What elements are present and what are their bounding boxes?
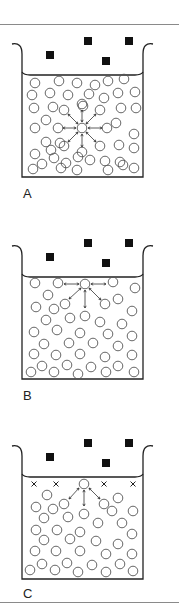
attraction-arrow-icon (64, 283, 79, 285)
molecule-icon (100, 156, 110, 166)
molecule-icon (95, 317, 105, 327)
molecule-icon (61, 158, 71, 168)
x-mark-icon (102, 482, 107, 487)
molecule-icon (72, 165, 82, 175)
molecule-icon (113, 88, 123, 98)
attraction-arrow-icon (63, 127, 76, 129)
molecule-icon (101, 567, 111, 577)
molecule-icon (59, 499, 69, 509)
liquid-surface (22, 474, 143, 477)
molecule-icon (118, 160, 128, 170)
molecule-icon (127, 350, 137, 360)
molecule-icon (103, 329, 113, 339)
molecule-icon (75, 546, 85, 556)
molecule-icon (53, 278, 63, 288)
molecule-icon (62, 360, 72, 370)
molecule-icon (129, 367, 139, 377)
solid-particle-icon (84, 439, 92, 447)
molecule-icon (75, 349, 85, 359)
molecule-icon (100, 352, 110, 362)
molecule-icon (88, 338, 98, 348)
molecule-icon (113, 341, 123, 351)
molecule-icon (111, 118, 121, 128)
panel-a (0, 24, 179, 204)
molecule-icon (65, 534, 75, 544)
molecule-icon (77, 123, 87, 133)
molecule-icon (39, 535, 49, 545)
molecule-icon (80, 279, 90, 289)
molecule-icon (73, 369, 83, 379)
attraction-arrow-icon (91, 283, 106, 285)
molecule-icon (127, 529, 137, 539)
solid-particle-icon (102, 459, 110, 467)
molecule-icon (99, 93, 109, 103)
molecule-icon (103, 76, 113, 86)
molecule-icon (62, 558, 72, 568)
molecule-icon (95, 141, 105, 151)
molecule-icon (113, 294, 123, 304)
molecule-icon (130, 87, 140, 97)
attraction-arrow-icon (83, 490, 85, 506)
attraction-arrow-icon (81, 110, 83, 122)
molecule-icon (63, 512, 73, 522)
molecule-icon (116, 103, 126, 113)
molecule-icon (117, 319, 127, 329)
molecule-icon (30, 149, 40, 159)
panel-label-c: C (23, 587, 32, 600)
molecule-icon (39, 339, 49, 349)
molecule-icon (107, 506, 117, 516)
panel-label-b: B (23, 389, 32, 402)
molecule-icon (86, 362, 96, 372)
molecule-icon (131, 103, 141, 113)
molecule-icon (48, 504, 58, 514)
molecule-icon (43, 290, 53, 300)
molecule-icon (72, 78, 82, 88)
molecule-icon (113, 361, 123, 371)
molecule-icon (29, 327, 39, 337)
molecule-icon (128, 566, 138, 576)
molecule-icon (115, 157, 125, 167)
attraction-arrow-icon (68, 114, 78, 124)
molecule-icon (54, 76, 64, 86)
molecule-icon (100, 299, 110, 309)
molecule-icon (90, 80, 100, 90)
solid-particle-icon (46, 453, 54, 461)
attraction-arrow-icon (88, 127, 102, 129)
solid-particle-icon (84, 37, 92, 45)
molecule-icon (127, 331, 137, 341)
molecule-icon (79, 479, 89, 489)
molecule-icon (27, 90, 37, 100)
molecule-icon (49, 304, 59, 314)
attraction-arrow-icon (86, 114, 96, 124)
molecule-icon (101, 549, 111, 559)
molecule-icon (114, 140, 124, 150)
molecule-icon (80, 311, 90, 321)
molecule-icon (102, 123, 112, 133)
x-mark-icon (131, 482, 136, 487)
molecule-icon (28, 164, 38, 174)
molecule-icon (41, 315, 51, 325)
molecule-icon (29, 349, 39, 359)
molecule-icon (79, 509, 89, 519)
solid-particle-icon (125, 439, 133, 447)
molecule-icon (84, 89, 94, 99)
molecule-icon (49, 153, 59, 163)
molecule-icon (127, 549, 137, 559)
attraction-arrow-icon (89, 288, 101, 300)
molecule-icon (37, 159, 47, 169)
molecule-icon (26, 367, 36, 377)
attraction-arrow-icon (69, 488, 79, 499)
attraction-arrow-icon (68, 132, 78, 142)
molecule-icon (129, 163, 139, 173)
molecule-icon (73, 567, 83, 577)
molecule-icon (65, 313, 75, 323)
solid-particle-icon (46, 253, 54, 261)
molecule-icon (48, 102, 58, 112)
molecule-icon (129, 143, 139, 153)
solid-particle-icon (84, 239, 92, 247)
molecule-icon (129, 129, 139, 139)
molecule-icon (75, 527, 85, 537)
attraction-arrow-icon (89, 488, 100, 499)
solid-particle-icon (102, 259, 110, 267)
x-mark-icon (54, 482, 59, 487)
